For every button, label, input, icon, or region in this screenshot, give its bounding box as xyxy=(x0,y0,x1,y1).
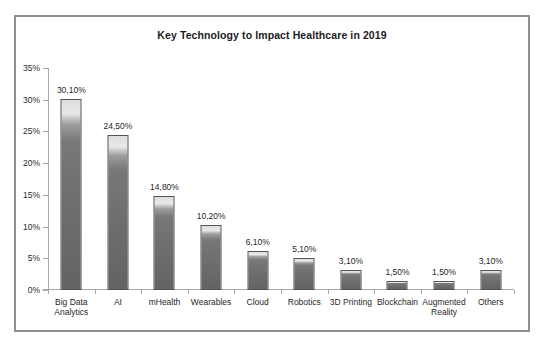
bar-slot: 14,80%mHealth xyxy=(141,68,188,290)
bar[interactable] xyxy=(294,258,315,290)
bar-slot: 30,10%Big Data Analytics xyxy=(48,68,95,290)
bar[interactable] xyxy=(247,251,268,290)
bar-slot: 1,50%Augmented Reality xyxy=(421,68,468,290)
y-axis-label: 10% xyxy=(23,222,40,232)
bar-value-label: 14,80% xyxy=(150,182,179,192)
y-axis-label: 35% xyxy=(23,63,40,73)
bar-value-label: 1,50% xyxy=(432,267,456,277)
y-axis-label: 15% xyxy=(23,190,40,200)
x-axis-tick xyxy=(467,290,468,294)
bar-value-label: 30,10% xyxy=(57,85,86,95)
x-axis-tick xyxy=(421,290,422,294)
plot-area: 0%5%10%15%20%25%30%35% 30,10%Big Data An… xyxy=(48,68,514,290)
bar[interactable] xyxy=(340,270,361,290)
x-axis-category-label: Others xyxy=(459,297,523,307)
bar[interactable] xyxy=(387,281,408,291)
bar-value-label: 1,50% xyxy=(385,267,409,277)
bar-slot: 5,10%Robotics xyxy=(281,68,328,290)
bar-slot: 3,10%Others xyxy=(467,68,514,290)
bar-value-label: 3,10% xyxy=(339,256,363,266)
bar-value-label: 6,10% xyxy=(246,237,270,247)
x-axis-tick xyxy=(374,290,375,294)
x-axis-tick xyxy=(141,290,142,294)
bar-slot: 6,10%Cloud xyxy=(234,68,281,290)
x-axis-tick xyxy=(328,290,329,294)
bar-value-label: 5,10% xyxy=(292,244,316,254)
bar-slot: 24,50%AI xyxy=(95,68,142,290)
bar[interactable] xyxy=(107,135,128,290)
x-axis-tick xyxy=(281,290,282,294)
x-axis-tick xyxy=(48,290,49,294)
scan-artifact-text xyxy=(120,0,420,9)
x-axis-tick xyxy=(234,290,235,294)
bar-slot: 1,50%Blockchain xyxy=(374,68,421,290)
bar[interactable] xyxy=(154,196,175,290)
y-axis-label: 25% xyxy=(23,126,40,136)
y-axis-label: 5% xyxy=(28,253,40,263)
bar-value-label: 3,10% xyxy=(479,256,503,266)
bar-slot: 10,20%Wearables xyxy=(188,68,235,290)
bar-value-label: 10,20% xyxy=(197,211,226,221)
x-axis-tick xyxy=(188,290,189,294)
bar-slot: 3,10%3D Printing xyxy=(328,68,375,290)
bar[interactable] xyxy=(434,281,455,291)
x-axis-tick xyxy=(95,290,96,294)
chart-frame: Key Technology to Impact Healthcare in 2… xyxy=(14,15,530,332)
bar[interactable] xyxy=(61,99,82,290)
y-axis-label: 20% xyxy=(23,158,40,168)
x-axis-tick xyxy=(514,290,515,294)
chart-title: Key Technology to Impact Healthcare in 2… xyxy=(16,29,528,41)
y-axis-label: 0% xyxy=(28,285,40,295)
bar[interactable] xyxy=(480,270,501,290)
y-axis-label: 30% xyxy=(23,95,40,105)
bar[interactable] xyxy=(201,225,222,290)
bar-value-label: 24,50% xyxy=(103,121,132,131)
